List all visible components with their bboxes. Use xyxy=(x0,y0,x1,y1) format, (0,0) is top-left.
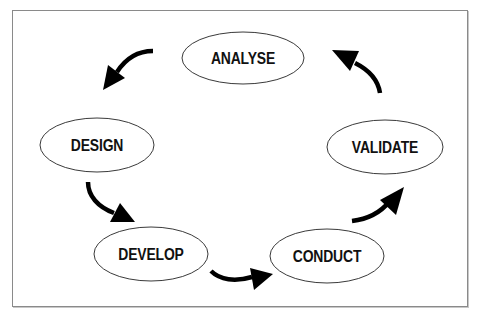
node-conduct: CONDUCT xyxy=(270,229,384,283)
node-develop: DEVELOP xyxy=(94,227,208,281)
cycle-diagram: ANALYSE DESIGN DEVELOP CONDUCT VALIDATE xyxy=(0,0,482,316)
arrow-develop-to-conduct-icon xyxy=(211,268,273,290)
node-design-label: DESIGN xyxy=(71,136,123,155)
arrow-conduct-to-validate-icon xyxy=(352,187,404,221)
node-validate-label: VALIDATE xyxy=(352,138,418,157)
node-design: DESIGN xyxy=(40,118,154,172)
node-conduct-label: CONDUCT xyxy=(293,247,362,266)
node-validate: VALIDATE xyxy=(327,120,443,174)
arrow-validate-to-analyse-icon xyxy=(332,50,380,93)
node-analyse-label: ANALYSE xyxy=(211,49,275,68)
arrow-design-to-develop-icon xyxy=(88,182,135,222)
node-analyse: ANALYSE xyxy=(182,32,304,84)
node-develop-label: DEVELOP xyxy=(118,245,183,264)
arrow-analyse-to-design-icon xyxy=(103,51,153,90)
